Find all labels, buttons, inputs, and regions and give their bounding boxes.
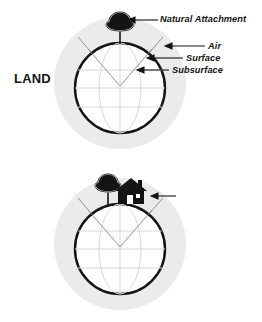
callout-subsurface: Subsurface — [172, 65, 223, 76]
panel-real-estate: REAL ESTATE Land + Manmade Attachments — [0, 161, 262, 322]
callout-surface: Surface — [186, 53, 220, 64]
callout-natural-attachment: Natural Attachment — [160, 14, 246, 25]
panel-land: LAND Natural Attachment Air Surface Subs… — [0, 0, 262, 161]
callout-air: Air — [208, 41, 221, 52]
panel-land-side-label: LAND — [14, 72, 51, 87]
real-estate-panel-graphic — [0, 161, 262, 322]
land-vs-real-estate-diagram: LAND Natural Attachment Air Surface Subs… — [0, 0, 262, 322]
